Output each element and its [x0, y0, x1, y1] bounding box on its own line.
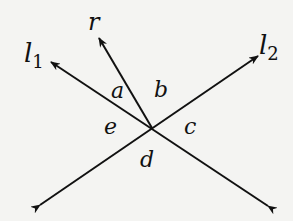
label-r: r	[88, 8, 101, 36]
angle-d: d	[140, 147, 154, 172]
angle-b: b	[154, 77, 168, 102]
angle-diagram: l1 l2 r a b c d e	[0, 0, 293, 221]
line-l2	[40, 56, 258, 205]
angle-e: e	[104, 114, 117, 139]
label-l2: l2	[259, 30, 279, 64]
label-l1: l1	[24, 38, 44, 72]
angle-c: c	[184, 114, 196, 139]
angle-a: a	[111, 78, 124, 103]
